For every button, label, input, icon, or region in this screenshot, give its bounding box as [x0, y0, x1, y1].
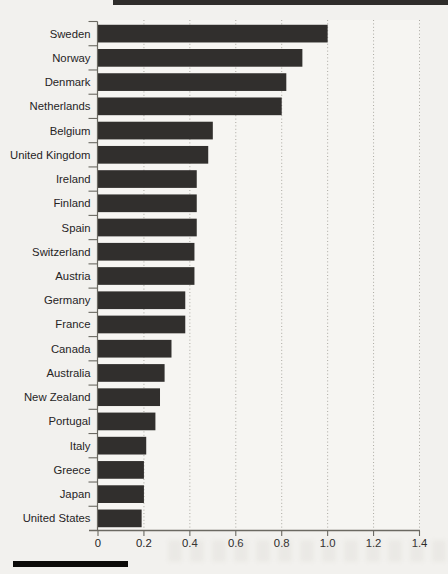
category-label-switzerland: Switzerland — [32, 246, 90, 258]
category-label-belgium: Belgium — [50, 125, 91, 137]
category-label-finland: Finland — [53, 197, 90, 209]
bar-denmark — [98, 73, 286, 91]
bar-switzerland — [98, 243, 194, 261]
x-tick-labels: 00.20.40.60.81.01.21.4 — [95, 537, 428, 549]
bar-austria — [98, 267, 194, 285]
bar-france — [98, 316, 185, 334]
category-label-germany: Germany — [44, 294, 91, 306]
category-label-ireland: Ireland — [56, 173, 91, 185]
scanned-page: SwedenNorwayDenmarkNetherlandsBelgiumUni… — [0, 0, 448, 574]
bar-canada — [98, 340, 171, 358]
category-label-canada: Canada — [51, 343, 91, 355]
category-label-united-kingdom: United Kingdom — [10, 149, 90, 161]
bar-chart: SwedenNorwayDenmarkNetherlandsBelgiumUni… — [0, 0, 448, 574]
bar-japan — [98, 485, 144, 503]
x-tick-label-0.4: 0.4 — [182, 537, 198, 549]
category-label-greece: Greece — [53, 464, 90, 476]
x-tick-label-1.4: 1.4 — [412, 537, 428, 549]
bar-australia — [98, 364, 165, 382]
category-label-spain: Spain — [62, 222, 91, 234]
bar-united-kingdom — [98, 146, 208, 164]
bar-sweden — [98, 25, 328, 43]
category-label-netherlands: Netherlands — [30, 100, 91, 112]
category-label-norway: Norway — [52, 52, 91, 64]
x-tick-label-0.8: 0.8 — [274, 537, 290, 549]
x-tick-label-0.6: 0.6 — [228, 537, 244, 549]
category-label-italy: Italy — [70, 440, 91, 452]
bar-italy — [98, 437, 146, 455]
x-axis — [89, 531, 420, 537]
bottom-black-rule — [13, 561, 128, 567]
bar-ireland — [98, 170, 197, 188]
category-label-france: France — [55, 318, 90, 330]
bar-united-states — [98, 510, 142, 528]
x-tick-label-1.2: 1.2 — [366, 537, 382, 549]
bar-germany — [98, 291, 185, 309]
x-tick-label-0: 0 — [95, 537, 101, 549]
bar-spain — [98, 219, 197, 237]
bar-new-zealand — [98, 388, 160, 406]
bar-greece — [98, 461, 144, 479]
category-label-austria: Austria — [55, 270, 91, 282]
category-label-new-zealand: New Zealand — [24, 391, 91, 403]
category-labels: SwedenNorwayDenmarkNetherlandsBelgiumUni… — [10, 28, 91, 525]
category-label-sweden: Sweden — [50, 28, 91, 40]
x-tick-label-1.0: 1.0 — [320, 537, 336, 549]
category-label-denmark: Denmark — [45, 76, 91, 88]
bar-netherlands — [98, 97, 282, 115]
x-tick-label-0.2: 0.2 — [136, 537, 152, 549]
category-label-australia: Australia — [47, 367, 92, 379]
bar-finland — [98, 194, 197, 212]
category-label-portugal: Portugal — [48, 415, 90, 427]
category-label-united-states: United States — [23, 512, 91, 524]
bar-belgium — [98, 122, 213, 140]
bar-portugal — [98, 413, 155, 431]
category-label-japan: Japan — [60, 488, 91, 500]
bar-norway — [98, 49, 302, 67]
